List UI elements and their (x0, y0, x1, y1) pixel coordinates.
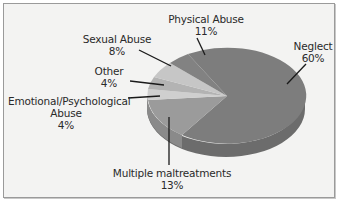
label-other: Other 4% (94, 65, 124, 89)
label-emotional-abuse: Emotional/Psychological Abuse 4% (8, 95, 124, 131)
label-multiple-maltreatments: Multiple maltreatments 13% (112, 167, 232, 191)
label-physical-abuse: Physical Abuse 11% (150, 13, 262, 37)
label-neglect: Neglect 60% (290, 40, 336, 64)
pie-slices (147, 48, 306, 144)
label-sexual-abuse: Sexual Abuse 8% (82, 33, 152, 57)
